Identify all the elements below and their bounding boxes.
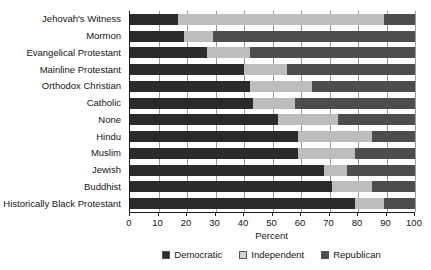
stacked-bar-chart: Jehovah's WitnessMormonEvangelical Prote… [0, 0, 431, 270]
bar-segment-independent [298, 148, 355, 159]
bar-segment-republican [312, 81, 415, 92]
bar-segment-republican [384, 198, 415, 209]
bar-segment-democratic [130, 165, 324, 176]
x-axis-tick-label: 10 [152, 217, 163, 228]
bar-segment-republican [384, 14, 415, 25]
bar-segment-republican [250, 47, 415, 58]
bar-row [130, 98, 415, 109]
bar-segment-independent [178, 14, 383, 25]
legend-label-republican: Republican [333, 249, 381, 260]
x-axis-tick-label: 70 [323, 217, 334, 228]
x-axis-tick-label: 30 [209, 217, 220, 228]
x-axis-tick-marks [129, 212, 414, 216]
x-axis-tick [129, 212, 130, 216]
x-axis-tick-label: 90 [380, 217, 391, 228]
bar-row [130, 131, 415, 142]
legend-swatch-republican-icon [321, 251, 329, 259]
bar-segment-democratic [130, 14, 178, 25]
x-axis-tick-label: 80 [352, 217, 363, 228]
bar-row [130, 114, 415, 125]
bar-row [130, 14, 415, 25]
bar-segment-independent [184, 31, 213, 42]
category-label: Mainline Protestant [40, 65, 121, 75]
chart-legend: Democratic Independent Republican [129, 249, 414, 260]
category-label: Buddhist [84, 182, 121, 192]
x-axis-tick-labels: 0102030405060708090100 [129, 217, 414, 229]
x-axis-tick [300, 212, 301, 216]
x-axis-tick-label: 100 [406, 217, 422, 228]
category-label: None [98, 115, 121, 125]
bar-segment-republican [295, 98, 415, 109]
bar-segment-independent [332, 181, 372, 192]
category-label: Hindu [96, 132, 121, 142]
bar-segment-independent [298, 131, 372, 142]
x-axis-title: Percent [129, 230, 414, 241]
bar-segment-independent [250, 81, 313, 92]
category-label: Catholic [87, 98, 121, 108]
bar-segment-democratic [130, 98, 253, 109]
bar-segment-republican [347, 165, 415, 176]
legend-label-independent: Independent [251, 249, 304, 260]
category-label: Orthodox Christian [42, 81, 121, 91]
bar-segment-democratic [130, 64, 244, 75]
bar-segment-republican [355, 148, 415, 159]
x-axis-tick-label: 0 [126, 217, 131, 228]
bar-row [130, 198, 415, 209]
legend-swatch-democratic-icon [162, 251, 170, 259]
bar-series-group [130, 11, 415, 212]
bar-row [130, 47, 415, 58]
x-axis-tick-label: 50 [266, 217, 277, 228]
x-axis-tick [272, 212, 273, 216]
bar-row [130, 31, 415, 42]
x-axis-tick [215, 212, 216, 216]
x-axis-tick [329, 212, 330, 216]
x-axis-tick [186, 212, 187, 216]
x-axis-tick-label: 40 [238, 217, 249, 228]
bar-segment-democratic [130, 181, 332, 192]
category-label: Jewish [92, 165, 121, 175]
bar-segment-democratic [130, 81, 250, 92]
bar-row [130, 165, 415, 176]
bar-segment-republican [338, 114, 415, 125]
bar-segment-republican [372, 181, 415, 192]
bar-segment-independent [324, 165, 347, 176]
legend-item-republican: Republican [321, 249, 381, 260]
bar-row [130, 81, 415, 92]
x-axis-tick [386, 212, 387, 216]
bar-segment-independent [207, 47, 250, 58]
bar-segment-republican [213, 31, 415, 42]
bar-segment-democratic [130, 31, 184, 42]
x-axis-tick-label: 20 [181, 217, 192, 228]
bar-segment-democratic [130, 148, 298, 159]
bar-segment-democratic [130, 198, 355, 209]
bar-row [130, 181, 415, 192]
bar-segment-independent [278, 114, 338, 125]
bar-row [130, 64, 415, 75]
category-label: Mormon [86, 31, 121, 41]
x-axis-tick [357, 212, 358, 216]
bar-segment-independent [355, 198, 384, 209]
bar-segment-independent [244, 64, 287, 75]
bar-segment-independent [253, 98, 296, 109]
category-label: Evangelical Protestant [26, 48, 121, 58]
legend-swatch-independent-icon [239, 251, 247, 259]
category-label: Historically Black Protestant [3, 199, 121, 209]
category-label: Muslim [91, 148, 121, 158]
bar-segment-democratic [130, 114, 278, 125]
plot-area [129, 11, 415, 213]
x-axis-tick [158, 212, 159, 216]
bar-segment-republican [287, 64, 415, 75]
gridline [415, 11, 416, 212]
x-axis-tick [414, 212, 415, 216]
category-axis-labels: Jehovah's WitnessMormonEvangelical Prote… [0, 11, 125, 212]
bar-segment-democratic [130, 47, 207, 58]
legend-item-independent: Independent [239, 249, 304, 260]
bar-segment-republican [372, 131, 415, 142]
category-label: Jehovah's Witness [42, 14, 121, 24]
x-axis-tick-label: 60 [295, 217, 306, 228]
bar-segment-democratic [130, 131, 298, 142]
legend-label-democratic: Democratic [174, 249, 222, 260]
legend-item-democratic: Democratic [162, 249, 222, 260]
x-axis-tick [243, 212, 244, 216]
bar-row [130, 148, 415, 159]
